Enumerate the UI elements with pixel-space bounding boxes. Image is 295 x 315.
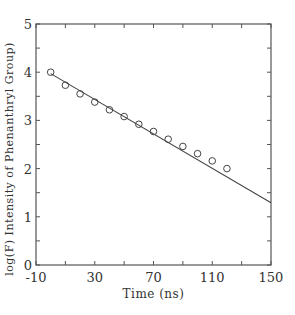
x-axis-label: Time (ns)	[123, 287, 185, 301]
axis-ticks	[36, 24, 271, 265]
plot-frame	[36, 24, 271, 265]
y-tick-label: 4	[24, 65, 32, 80]
y-tick-labels: 012345	[24, 17, 32, 273]
x-tick-label: 70	[145, 270, 162, 285]
data-point	[194, 150, 201, 157]
x-tick-label: 30	[86, 270, 103, 285]
data-point	[180, 143, 187, 150]
fit-line	[51, 74, 271, 203]
data-point	[77, 91, 84, 98]
chart: -103070110150 012345 Time (ns) log(F) In…	[0, 0, 295, 315]
plot-series	[47, 69, 271, 203]
y-tick-label: 0	[24, 258, 32, 273]
y-tick-label: 1	[24, 210, 32, 225]
data-point	[209, 158, 216, 165]
x-tick-label: 150	[259, 270, 284, 285]
x-tick-label: 110	[200, 270, 225, 285]
data-point	[224, 165, 231, 172]
y-tick-label: 5	[24, 17, 32, 32]
y-tick-label: 2	[24, 162, 32, 177]
y-axis-label: log(F) Intensity of Phenanthryl Group)	[3, 42, 16, 276]
y-tick-label: 3	[24, 113, 32, 128]
x-tick-labels: -103070110150	[26, 270, 284, 285]
data-point	[62, 82, 69, 89]
